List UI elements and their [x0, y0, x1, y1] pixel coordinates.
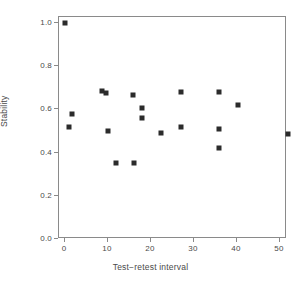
- x-tick-mark: [107, 238, 108, 242]
- data-point: [113, 161, 118, 166]
- scatter-plot-figure: 01020304050 0.00.20.40.60.81.0 Test−rete…: [0, 0, 301, 295]
- x-tick-mark: [279, 238, 280, 242]
- data-point: [286, 132, 291, 137]
- data-points-layer: [59, 17, 285, 237]
- data-point: [216, 146, 221, 151]
- y-tick-mark: [54, 152, 58, 153]
- y-tick-mark: [54, 65, 58, 66]
- data-point: [105, 129, 110, 134]
- plot-area: [58, 16, 286, 238]
- x-tick-label: 10: [102, 244, 111, 253]
- data-point: [178, 124, 183, 129]
- y-tick-label: 0.8: [40, 61, 52, 70]
- x-tick-mark: [150, 238, 151, 242]
- data-point: [178, 90, 183, 95]
- data-point: [131, 161, 136, 166]
- x-axis-label: Test−retest interval: [0, 262, 301, 272]
- y-tick-label: 0.0: [40, 234, 52, 243]
- y-tick-label: 0.4: [40, 147, 52, 156]
- data-point: [70, 111, 75, 116]
- x-tick-label: 0: [62, 244, 67, 253]
- data-point: [139, 106, 144, 111]
- data-point: [104, 91, 109, 96]
- x-tick-mark: [193, 238, 194, 242]
- y-tick-mark: [54, 22, 58, 23]
- data-point: [236, 103, 241, 108]
- data-point: [130, 93, 135, 98]
- x-tick-label: 30: [188, 244, 197, 253]
- data-point: [139, 116, 144, 121]
- y-tick-mark: [54, 108, 58, 109]
- y-tick-mark: [54, 195, 58, 196]
- data-point: [216, 90, 221, 95]
- x-tick-label: 40: [231, 244, 240, 253]
- data-point: [158, 131, 163, 136]
- y-axis-label: Stability: [0, 95, 9, 127]
- y-tick-label: 1.0: [40, 18, 52, 27]
- data-point: [67, 124, 72, 129]
- y-tick-label: 0.6: [40, 104, 52, 113]
- x-tick-label: 20: [145, 244, 154, 253]
- data-point: [63, 21, 68, 26]
- x-tick-mark: [236, 238, 237, 242]
- y-tick-label: 0.2: [40, 190, 52, 199]
- y-tick-mark: [54, 238, 58, 239]
- data-point: [216, 126, 221, 131]
- x-tick-label: 50: [274, 244, 283, 253]
- x-tick-mark: [64, 238, 65, 242]
